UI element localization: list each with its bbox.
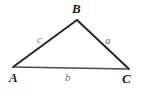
triangle-drawing xyxy=(0,0,141,99)
side-a-segment xyxy=(77,20,129,69)
triangle-outline xyxy=(13,20,129,69)
vertex-label-a: A xyxy=(9,71,18,84)
vertex-label-b: B xyxy=(72,2,81,15)
triangle-figure: A B C a b c xyxy=(0,0,141,99)
side-label-c: c xyxy=(37,34,42,45)
side-c-segment xyxy=(13,20,77,67)
side-b-segment xyxy=(13,67,129,69)
vertex-label-c: C xyxy=(122,72,131,85)
side-label-a: a xyxy=(105,35,111,46)
side-label-b: b xyxy=(65,72,71,83)
